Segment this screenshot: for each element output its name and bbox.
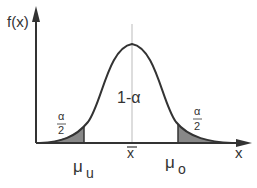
upper-bound-subscript: o xyxy=(178,161,186,177)
right-tail-numerator: α xyxy=(194,105,201,117)
x-axis-label: x xyxy=(235,144,243,161)
center-area-label: 1-α xyxy=(117,89,140,106)
right-tail-denominator: 2 xyxy=(194,120,200,132)
center-label: x xyxy=(127,145,134,161)
normal-distribution-diagram: f(x) 1-α α 2 α 2 x x μ u μ o xyxy=(0,0,257,188)
left-tail-denominator: 2 xyxy=(58,124,64,136)
lower-bound-symbol: μ xyxy=(73,157,83,176)
left-tail-numerator: α xyxy=(58,110,65,122)
y-axis-arrow-icon xyxy=(32,6,40,22)
lower-bound-subscript: u xyxy=(86,165,94,181)
right-tail-area xyxy=(178,125,228,143)
upper-bound-symbol: μ xyxy=(165,153,175,172)
y-axis-label: f(x) xyxy=(7,13,29,30)
